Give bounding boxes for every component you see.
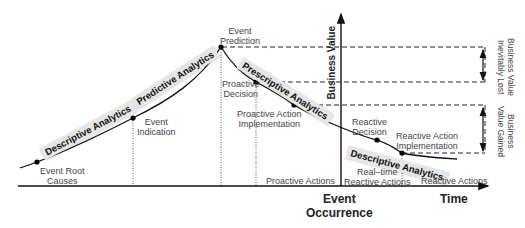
label-event-occurrence: Event Occurrence (306, 192, 373, 220)
business-value-diagram: Descriptive Analytics Predictive Analyti… (0, 0, 525, 228)
label-event-indication: Event Indication (137, 117, 176, 137)
label-business-value-axis: Business Value (326, 26, 337, 99)
point-reactive-decision (374, 137, 379, 142)
label-reactive-actions: Reactive Actions (421, 176, 488, 186)
label-realtime-reactive-actions: Real–time Reactive Actions (344, 167, 411, 187)
label-event-root-causes: Event Root Causes (40, 166, 85, 186)
point-root-causes (34, 159, 39, 164)
label-business-value-gained: Business Value Gained (496, 106, 516, 157)
label-reactive-decision: Reactive Decision (352, 117, 387, 137)
label-proactive-decision: Proactive Decision (222, 79, 260, 99)
point-reactive-impl (399, 150, 404, 155)
label-proactive-actions: Proactive Actions (266, 176, 335, 186)
label-event-prediction: Event Prediction (220, 26, 260, 46)
label-reactive-action-implementation: Reactive Action Implementation (396, 131, 458, 151)
label-proactive-action-implementation: Proactive Action Implementation (237, 109, 302, 129)
label-time-axis: Time (440, 192, 468, 206)
label-business-value-lost: Business Value Inevitably Lost (496, 38, 516, 96)
point-indication (130, 115, 135, 120)
